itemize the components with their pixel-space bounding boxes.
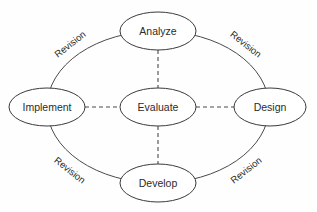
node-design[interactable]: Design (234, 88, 306, 126)
revision-label-bottom-left: Revision (52, 154, 87, 185)
addie-model-diagram: Analyze Implement Evaluate Design Develo… (0, 0, 317, 212)
node-develop-label: Develop (139, 177, 178, 189)
node-design-label: Design (254, 101, 287, 113)
node-analyze-label: Analyze (139, 25, 177, 37)
revision-label-top-left: Revision (52, 28, 87, 59)
revision-label-bottom-right: Revision (228, 154, 263, 185)
node-evaluate-label: Evaluate (138, 101, 179, 113)
node-develop[interactable]: Develop (120, 164, 196, 202)
node-implement[interactable]: Implement (9, 88, 85, 126)
revision-label-top-right: Revision (228, 28, 263, 59)
node-evaluate[interactable]: Evaluate (120, 88, 196, 126)
diagram-canvas: Analyze Implement Evaluate Design Develo… (0, 0, 317, 212)
node-implement-label: Implement (22, 101, 71, 113)
node-analyze[interactable]: Analyze (120, 12, 196, 50)
